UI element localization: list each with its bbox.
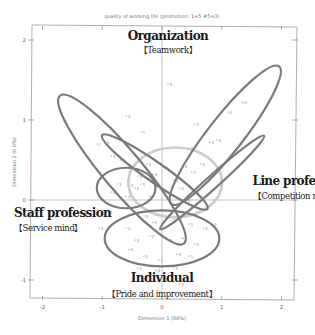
data-point-label: 3 — [169, 82, 172, 87]
x-tick-label: 2 — [280, 304, 284, 310]
data-point-label: 3 — [119, 182, 122, 187]
data-point-marker — [194, 243, 195, 244]
data-point-label: 1 — [131, 183, 134, 188]
data-point-label: 1 — [193, 170, 196, 175]
data-point-marker — [170, 219, 171, 220]
data-point-marker — [149, 195, 150, 196]
pole-title-individual: Individual — [131, 271, 194, 285]
data-point-marker — [126, 227, 127, 228]
data-point-marker — [152, 222, 153, 223]
data-point-label: 2 — [101, 226, 104, 231]
x-axis-label: Dimension 1 (64%) — [138, 315, 186, 321]
y-tick-label: 0 — [23, 197, 27, 203]
pole-subtitle-teamwork: 【Teamwork】 — [139, 45, 198, 55]
data-point-marker — [158, 259, 159, 260]
data-point-marker — [227, 111, 228, 112]
data-point-marker — [182, 238, 183, 239]
data-point-label: 4 — [244, 100, 247, 105]
x-tick-label: -1 — [100, 304, 105, 310]
data-point-label: 4 — [229, 110, 232, 115]
pole-title-organization: Organization — [128, 29, 209, 43]
data-point-label: 1 — [205, 226, 208, 231]
data-point-marker — [99, 227, 100, 228]
pole-subtitle-competition-mind: 【Competition mind】 — [253, 191, 315, 201]
data-point-marker — [120, 159, 121, 160]
data-point-marker — [126, 115, 127, 116]
data-point-marker — [146, 163, 147, 164]
pole-title-staff-profession: Staff profession — [14, 206, 112, 220]
data-point-marker — [242, 102, 243, 103]
pole-subtitle-service-mind: 【Service mind】 — [14, 223, 83, 233]
data-point-marker — [129, 249, 130, 250]
data-point-label: 1 — [196, 242, 199, 247]
data-point-label: 2 — [196, 122, 199, 127]
data-point-marker — [140, 183, 141, 184]
data-point-label: 2 — [140, 266, 143, 271]
data-point-label: 1 — [131, 247, 134, 252]
data-point-marker — [138, 175, 139, 176]
pole-label-top: Organization 【Teamwork】 — [128, 29, 209, 55]
data-point-marker — [191, 171, 192, 172]
x-tick-label: 1 — [220, 304, 224, 310]
data-point-marker — [179, 187, 180, 188]
data-point-label: 1 — [155, 220, 158, 225]
data-point-marker — [176, 254, 177, 255]
data-point-label: 3 — [149, 162, 152, 167]
data-point-marker — [143, 215, 144, 216]
data-point-marker — [126, 195, 127, 196]
data-point-marker — [143, 255, 144, 256]
data-point-label: 1 — [190, 222, 193, 227]
data-point-label: 2 — [137, 186, 140, 191]
data-point-marker — [200, 163, 201, 164]
y-tick-label: 1 — [23, 117, 27, 123]
data-point-label: 4 — [218, 138, 221, 143]
data-point-label: 1 — [143, 182, 146, 187]
data-point-marker — [209, 142, 210, 143]
chart-title: quality of working life (promotion: 1=5 … — [104, 13, 220, 20]
data-point-label: 2 — [98, 142, 101, 147]
data-point-label: 3 — [146, 214, 149, 219]
data-point-marker — [188, 223, 189, 224]
data-point-label: 1 — [190, 254, 193, 259]
data-point-label: 1 — [146, 254, 149, 259]
pole-title-line-profession: Line profession — [253, 174, 315, 188]
data-point-marker — [188, 255, 189, 256]
data-point-label: 2 — [152, 234, 155, 239]
pole-label-right: Line profession 【Competition mind】 — [253, 174, 315, 201]
data-point-label: 1 — [202, 162, 205, 167]
data-point-marker — [194, 123, 195, 124]
data-point-marker — [138, 267, 139, 268]
y-axis-ticks: -1012 — [21, 37, 298, 283]
plot-frame — [30, 25, 297, 300]
data-point-marker — [96, 143, 97, 144]
data-point-marker — [135, 239, 136, 240]
data-point-marker — [203, 227, 204, 228]
data-point-marker — [167, 83, 168, 84]
y-axis-label: Dimension 2 (6.6%) — [11, 137, 17, 187]
data-point-marker — [135, 187, 136, 188]
data-point-marker — [140, 131, 141, 132]
pole-subtitle-pride-improvement: 【Pride and improvement】 — [107, 289, 217, 299]
data-point-label: 4 — [128, 114, 131, 119]
data-point-label: 1 — [161, 258, 164, 263]
group-ellipses — [45, 56, 293, 267]
data-point-marker — [152, 174, 153, 175]
data-point-marker — [111, 155, 112, 156]
x-tick-label: -2 — [40, 304, 45, 310]
data-point-label: 2 — [128, 226, 131, 231]
data-point-label: 3 — [211, 140, 214, 145]
y-tick-label: 2 — [23, 37, 27, 43]
data-point-label: 2 — [181, 186, 184, 191]
mca-scatter-chart: quality of working life (promotion: 1=5 … — [0, 0, 315, 335]
data-point-label: 3 — [178, 252, 181, 257]
data-point-marker — [216, 139, 217, 140]
data-point-label: 4 — [155, 172, 158, 177]
y-tick-label: -1 — [21, 277, 26, 283]
x-tick-label: 0 — [160, 304, 164, 310]
data-point-marker — [111, 191, 112, 192]
data-point-marker — [173, 267, 174, 268]
data-point-marker — [149, 235, 150, 236]
pole-label-left: Staff profession 【Service mind】 — [14, 206, 112, 233]
data-point-label: 1 — [143, 130, 146, 135]
data-point-marker — [117, 183, 118, 184]
